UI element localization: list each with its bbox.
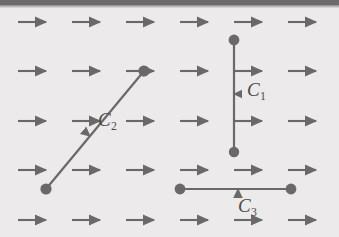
curve-c3-end-point	[175, 184, 186, 195]
curves-layer	[0, 0, 339, 237]
curve-c2-path	[46, 71, 144, 189]
curve-label-c3-letter: C	[238, 195, 251, 216]
curve-label-c1-letter: C	[247, 79, 260, 100]
curve-label-c3: C3	[238, 196, 257, 215]
curve-c1-start-point	[229, 35, 240, 46]
curve-label-c2: C2	[98, 110, 117, 129]
curve-label-c3-subscript: 3	[251, 206, 257, 219]
curve-label-c2-letter: C	[98, 109, 111, 130]
curve-label-c1: C1	[247, 80, 266, 99]
curve-c1	[229, 35, 240, 158]
curve-c1-end-point	[229, 147, 239, 157]
curve-c3-start-point	[286, 184, 297, 195]
curve-c2-start-point	[40, 183, 51, 194]
curve-c2-end-point	[138, 65, 149, 76]
curve-c2	[40, 65, 149, 194]
curve-label-c2-subscript: 2	[111, 120, 117, 133]
curve-c3	[175, 184, 297, 195]
curve-label-c1-subscript: 1	[260, 90, 266, 103]
vector-field-figure: C1 C2 C3	[0, 0, 339, 237]
